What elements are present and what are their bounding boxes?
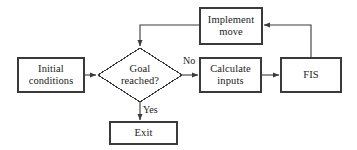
node-implement-move <box>200 8 262 44</box>
node-initial-conditions <box>18 58 84 92</box>
node-calculate-inputs <box>200 58 261 92</box>
node-exit <box>110 122 177 144</box>
edge-implement-to-goal <box>140 25 200 46</box>
flowchart-canvas: Initial conditions Goal reached? Calcula… <box>0 0 357 150</box>
flowchart-connectors-layer <box>0 0 357 150</box>
edge-fis-to-implement <box>264 25 311 58</box>
node-fis <box>281 58 341 92</box>
node-goal-reached <box>98 48 182 102</box>
